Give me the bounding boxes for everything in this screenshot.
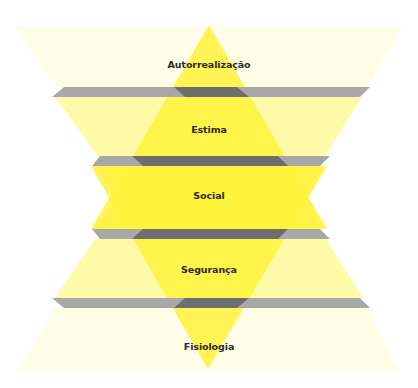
label-autorrealizacao: Autorrealização [0, 59, 418, 70]
label-estima: Estima [0, 124, 418, 135]
label-fisiologia: Fisiologia [0, 341, 418, 352]
slab-1-dark [174, 87, 249, 97]
slab-3-dark [132, 229, 288, 239]
label-seguranca: Segurança [0, 264, 418, 275]
slab-2-dark [132, 156, 288, 166]
label-social: Social [0, 190, 418, 201]
slab-4-dark [174, 298, 249, 308]
